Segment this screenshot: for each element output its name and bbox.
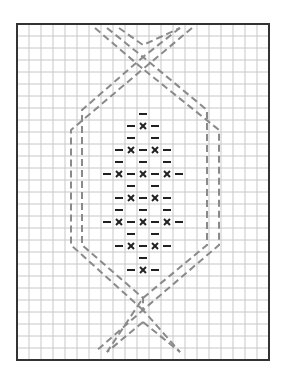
x-stitch-icon [128,147,134,153]
x-stitch-icon [128,243,134,249]
cable-line [82,28,180,352]
x-stitch-icon [152,243,158,249]
x-stitch-icon [116,219,122,225]
x-stitch-icon [140,171,146,177]
cable-line [107,28,207,352]
x-stitch-icon [116,171,122,177]
x-stitch-icon [152,147,158,153]
x-stitch-icon [164,171,170,177]
x-stitch-icon [152,195,158,201]
knitting-chart [0,0,289,383]
x-stitch-icon [140,267,146,273]
stitch-symbols [103,114,183,273]
cable-line [95,28,219,352]
cable-line [71,28,143,310]
x-stitch-icon [164,219,170,225]
x-stitch-icon [140,123,146,129]
x-stitch-icon [140,219,146,225]
x-stitch-icon [128,195,134,201]
